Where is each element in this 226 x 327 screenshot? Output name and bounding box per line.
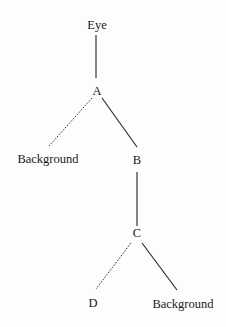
- node-c-label: C: [133, 226, 141, 240]
- tree-diagram-svg: Eye A Background B C D Background: [0, 0, 226, 327]
- node-background-left-label: Background: [17, 152, 79, 166]
- edge-a-background-dashed: [49, 98, 92, 146]
- edge-c-d-dashed: [96, 243, 131, 289]
- edge-a-b: [102, 98, 137, 147]
- node-eye-label: Eye: [87, 18, 107, 32]
- node-d-label: D: [88, 296, 97, 310]
- node-a-label: A: [92, 84, 101, 98]
- edge-c-background: [142, 243, 177, 290]
- tree-diagram: Eye A Background B C D Background: [0, 0, 226, 327]
- node-b-label: B: [133, 153, 141, 167]
- node-background-right-label: Background: [152, 297, 214, 311]
